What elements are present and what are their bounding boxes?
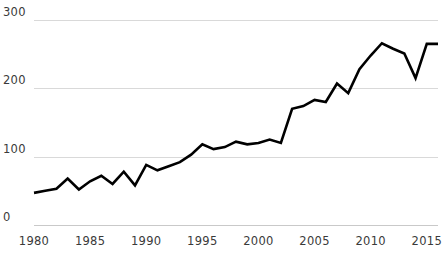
data-series-line	[34, 43, 438, 193]
x-tick-label-1995: 1995	[187, 236, 217, 248]
x-tick-label-2015: 2015	[412, 236, 442, 248]
line-chart: 0100200300 19801985199019952000200520102…	[0, 0, 445, 253]
x-tick-label-2010: 2010	[355, 236, 385, 248]
y-tick-label-0: 0	[3, 212, 11, 224]
gridlines	[34, 21, 438, 226]
y-tick-label-300: 300	[3, 7, 26, 19]
y-tick-label-100: 100	[3, 144, 26, 156]
x-tick-label-2005: 2005	[299, 236, 329, 248]
chart-canvas	[0, 0, 445, 253]
x-tick-label-1985: 1985	[75, 236, 105, 248]
y-tick-label-200: 200	[3, 75, 26, 87]
x-tick-label-2000: 2000	[243, 236, 273, 248]
x-tick-label-1980: 1980	[19, 236, 49, 248]
x-tick-label-1990: 1990	[131, 236, 161, 248]
